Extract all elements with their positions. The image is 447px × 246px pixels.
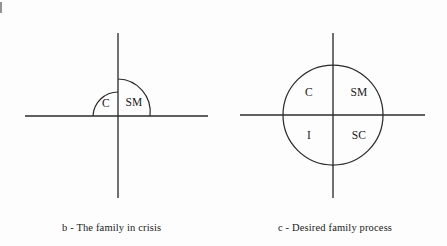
panel-c-label-c: C — [305, 86, 313, 98]
panel-b-diagram: C SM — [25, 33, 208, 198]
figure-root: C SM C SM I SC b - The family in crisis … — [0, 0, 447, 246]
panel-b-caption: b - The family in crisis — [62, 222, 161, 233]
panel-c-label-sc: SC — [352, 129, 367, 141]
panel-c-caption: c - Desired family process — [278, 222, 392, 233]
panel-b-label-sm: SM — [125, 96, 142, 108]
panel-b-label-c: C — [102, 97, 110, 109]
diagram-canvas: C SM C SM I SC — [0, 0, 447, 246]
panel-c-label-i: I — [307, 129, 311, 141]
panel-c-label-sm: SM — [350, 86, 367, 98]
panel-c-diagram: C SM I SC — [240, 33, 425, 198]
